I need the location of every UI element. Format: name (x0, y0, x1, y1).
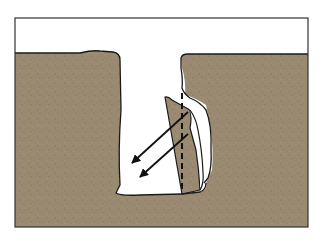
fissure-block-diagram (0, 0, 325, 245)
